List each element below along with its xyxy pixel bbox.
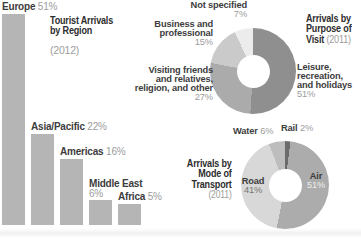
label-rail: Rail 2%: [281, 124, 313, 133]
bar-asia-pacific: [31, 134, 54, 225]
purpose-chart-title: Arrivals by Purpose of Visit (2011): [306, 13, 351, 44]
label-visiting: Visiting friends and relatives, religion…: [135, 66, 213, 102]
transport-chart-year: (2011): [187, 189, 232, 199]
region-title-line2: by Region: [50, 25, 113, 35]
label-not-specified: Not specified 7%: [191, 1, 247, 19]
label-water: Water 6%: [233, 127, 273, 136]
bar-middle-east: [89, 200, 112, 225]
purpose-title-line3: Visit (2011): [306, 34, 351, 44]
bar-label-africa: Africa 5%: [118, 192, 162, 202]
transport-chart-title: Arrivals by Mode of Transport (2011): [187, 158, 232, 199]
bar-africa: [118, 204, 141, 225]
label-air: Air 51%: [301, 172, 331, 190]
region-chart-title: Tourist Arrivals by Region: [50, 15, 113, 36]
region-chart-year: (2012): [50, 44, 79, 56]
bottom-shadow: [0, 228, 361, 238]
purpose-donut-hole: [237, 55, 270, 88]
bar-name: Europe: [2, 1, 35, 12]
tourism-infographic: Tourist Arrivals by Region (2012) Europe…: [0, 0, 361, 239]
label-road: Road 41%: [238, 177, 268, 195]
bar-name: Americas: [60, 146, 103, 157]
transport-donut-hole: [269, 169, 302, 202]
bar-label-europe: Europe 51%: [2, 2, 57, 12]
bar-label-asia-pacific: Asia/Pacific 22%: [31, 122, 107, 132]
bar-label-americas: Americas 16%: [60, 147, 125, 157]
bar-percent: 6%: [89, 188, 103, 199]
purpose-donut: [210, 28, 296, 114]
label-business: Business and professional 15%: [154, 20, 213, 47]
bar-percent: 16%: [106, 146, 125, 157]
label-leisure: Leisure, recreation, and holidays 51%: [297, 63, 352, 99]
bar-percent: 51%: [38, 1, 57, 12]
bar-americas: [60, 159, 83, 225]
bar-name: Asia/Pacific: [31, 121, 85, 132]
bar-europe: [2, 14, 25, 225]
bar-percent: 22%: [87, 121, 106, 132]
bar-percent: 5%: [148, 191, 162, 202]
purpose-chart-year: (2011): [326, 33, 350, 45]
bar-name: Africa: [118, 191, 145, 202]
